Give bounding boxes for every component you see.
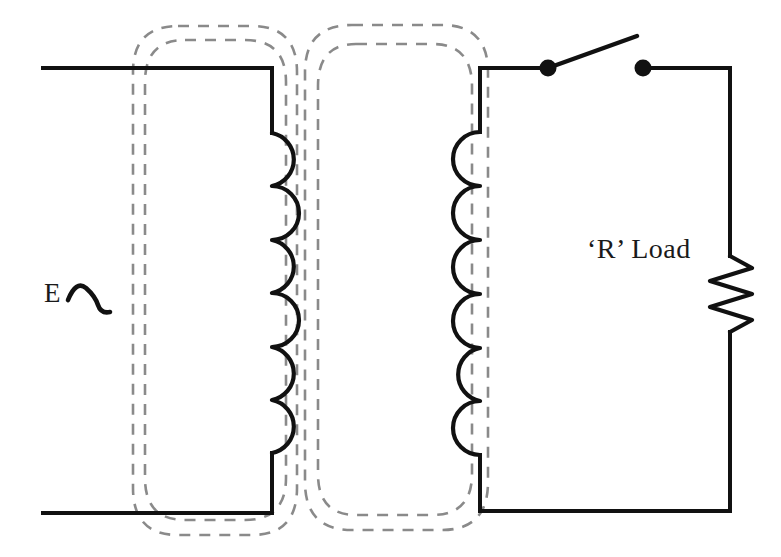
primary-top-wire [43,68,272,133]
primary-coil-arcs [272,133,299,453]
primary-circuit-group [43,68,272,513]
switch-contact-terminal-dot[interactable] [635,60,652,77]
ac-source-label: E [44,278,61,309]
switch-pivot-terminal-dot[interactable] [540,60,557,77]
load-label: ‘R’ Load [587,233,691,265]
flux-loop-left-inner [145,40,286,520]
secondary-coil-arcs [453,132,480,455]
transformer-circuit-diagram: E ‘R’ Load [0,0,781,557]
sine-wave-icon [68,286,110,313]
switch-blade-icon[interactable] [548,36,637,68]
secondary-winding [453,132,480,455]
secondary-top-wire [480,68,548,132]
primary-winding [272,133,299,453]
flux-loop-right-inner [318,44,472,515]
load-switch[interactable] [540,36,652,77]
secondary-circuit-group [480,68,730,511]
secondary-bottom-wire [480,455,730,511]
flux-lines-group [133,25,488,535]
resistor-zigzag [710,256,752,332]
flux-loop-right-outer [305,25,488,530]
primary-bottom-wire [43,453,272,513]
switch-to-load-wire [643,68,730,256]
circuit-schematic-svg [0,0,781,557]
ac-source-symbol [68,286,110,313]
load-resistor [710,256,752,332]
